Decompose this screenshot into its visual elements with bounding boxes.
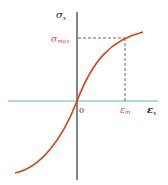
- y-axis-label: σx: [56, 9, 67, 21]
- origin-label: 0: [79, 106, 84, 115]
- sigma-max-label: σmax: [51, 34, 70, 44]
- stress-strain-curve: [15, 32, 143, 173]
- stress-strain-diagram: σx σmax 0 εm εx: [0, 0, 168, 185]
- x-axis-label: εx: [147, 104, 157, 116]
- epsilon-m-label: εm: [120, 105, 131, 115]
